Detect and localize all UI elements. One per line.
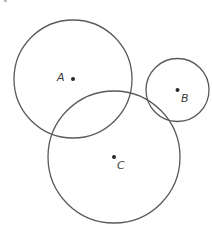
center-point-b bbox=[176, 88, 180, 92]
center-point-c bbox=[112, 155, 116, 159]
center-point-a bbox=[71, 77, 75, 81]
circles-diagram: A B C bbox=[0, 0, 212, 229]
label-c: C bbox=[117, 159, 125, 172]
cropped-corner-mark bbox=[4, 0, 7, 2]
label-a: A bbox=[56, 71, 65, 84]
circle-b-group: B bbox=[146, 59, 209, 122]
circle-c-group: C bbox=[48, 91, 180, 223]
label-b: B bbox=[181, 92, 189, 105]
circle-a-group: A bbox=[14, 20, 132, 138]
